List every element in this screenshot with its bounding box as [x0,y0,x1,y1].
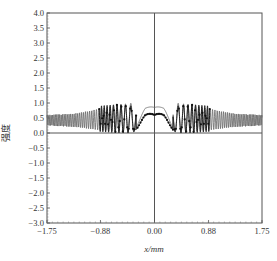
y-tick-label: −1.5 [29,173,44,183]
x-tick-label: −1.75 [37,226,57,236]
y-tick-label: 4.0 [33,8,44,18]
y-axis-title: 强度 [0,124,11,142]
y-tick-label: 0.5 [33,113,44,123]
y-tick-label: −2.0 [29,188,44,198]
x-tick-label: −0.88 [91,226,111,236]
x-tick-label: 1.75 [255,226,270,236]
y-tick-label: −1.0 [29,158,44,168]
chart: 4.03.53.02.52.01.51.00.50.0−0.5−1.0−1.5−… [0,0,277,261]
y-tick-label: −2.5 [29,203,44,213]
y-tick-label: 3.0 [33,38,44,48]
y-tick-label: 0.0 [33,128,44,138]
y-tick-label: 1.0 [33,98,44,108]
x-axis: −1.75−0.880.000.881.75 [37,220,269,236]
y-tick-label: −0.5 [29,143,44,153]
y-tick-label: 1.5 [33,83,44,93]
x-tick-label: 0.88 [201,226,216,236]
y-tick-label: 2.0 [33,68,44,78]
y-tick-label: 3.5 [33,23,44,33]
x-axis-title: x/mm [143,244,164,254]
x-tick-label: 0.00 [147,226,162,236]
y-tick-label: 2.5 [33,53,44,63]
